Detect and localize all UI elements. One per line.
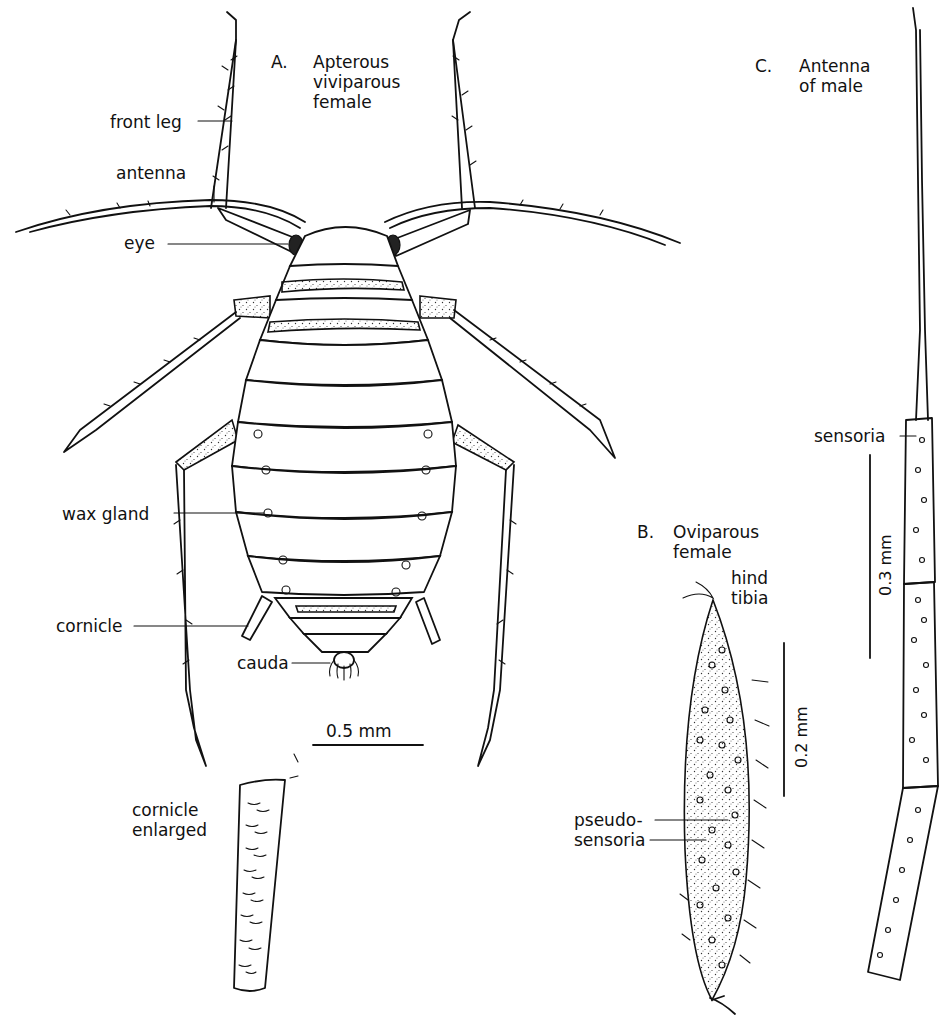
panel-c-letter: C.: [755, 56, 772, 76]
pseudo-sensoria-label: pseudo- sensoria: [574, 810, 645, 850]
aphid-anatomy-figure: A. Apterous viviparous female front leg …: [0, 0, 944, 1024]
front-leg-left: [211, 12, 237, 208]
scale-bar-c-label: 0.3 mm: [876, 534, 895, 596]
antenna-segment-3: [868, 786, 938, 980]
cornicle-label: cornicle: [56, 616, 122, 636]
sensoria-label: sensoria: [814, 426, 885, 446]
hind-tibia-label: hind tibia: [731, 568, 768, 608]
panel-b-drawing: [650, 582, 784, 1014]
panel-b-letter: B.: [637, 522, 654, 542]
cornicle-right: [416, 598, 440, 644]
cornicle-left: [242, 596, 272, 640]
front-leg-label: front leg: [110, 112, 182, 132]
front-femur-left: [218, 208, 300, 255]
panel-b-title: Oviparous female: [673, 522, 759, 562]
front-femur-right: [392, 210, 470, 256]
panel-c-drawing: [868, 8, 938, 980]
antenna-left: [16, 200, 305, 232]
wax-gland-label: wax gland: [62, 504, 149, 524]
scale-bar-a-label: 0.5 mm: [326, 721, 392, 741]
antenna-label: antenna: [116, 163, 186, 183]
cornicle-enlarged-drawing: [234, 754, 298, 991]
panel-c-title: Antenna of male: [799, 56, 871, 96]
panel-a-title: Apterous viviparous female: [313, 52, 400, 112]
cornicle-enlarged-title: cornicle enlarged: [132, 800, 207, 840]
panel-a-letter: A.: [271, 52, 288, 72]
scale-bar-b-label: 0.2 mm: [792, 706, 811, 768]
cauda: [330, 652, 359, 680]
hind-leg-right: [452, 425, 516, 766]
cauda-label: cauda: [237, 653, 289, 673]
aphid-body: [232, 227, 456, 652]
hind-leg-left: [174, 420, 238, 766]
front-leg-right: [452, 12, 476, 208]
antenna-segment-2: [903, 582, 938, 788]
eye-label: eye: [124, 233, 155, 253]
antenna-right: [385, 200, 680, 245]
